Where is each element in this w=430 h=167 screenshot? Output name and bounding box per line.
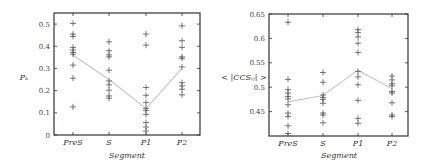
left-point-s xyxy=(106,82,112,88)
right-point-p1 xyxy=(355,82,361,88)
left-point-pres xyxy=(70,75,76,81)
right-y-tick-label: 0.45 xyxy=(249,108,265,116)
left-x-tick-label-p2: P2 xyxy=(176,138,187,147)
right-x-tick-label-p2: P2 xyxy=(386,139,397,148)
right-x-tick-label-pres: PreS xyxy=(277,139,298,148)
left-x-tick-label-pres: PreS xyxy=(62,138,83,147)
left-point-pres xyxy=(70,62,76,68)
left-point-pres xyxy=(70,20,76,26)
right-point-p1 xyxy=(355,97,361,103)
left-y-axis-title: Pₖ xyxy=(19,73,28,82)
left-y-tick-label: 0.5 xyxy=(39,21,50,29)
left-point-s xyxy=(106,67,112,73)
right-y-tick-label: 0.6 xyxy=(254,35,266,43)
left-y-tick-label: 0 xyxy=(46,132,50,140)
left-point-p1 xyxy=(143,85,149,91)
right-y-tick-label: 0.65 xyxy=(249,11,265,19)
right-mean-line xyxy=(288,70,392,102)
left-y-tick-label: 0.4 xyxy=(39,43,51,51)
left-y-tick-label: 0.3 xyxy=(39,65,50,73)
right-point-p1 xyxy=(355,34,361,40)
left-point-p1 xyxy=(143,100,149,106)
right-point-pres xyxy=(285,76,291,82)
left-plot-frame xyxy=(54,13,200,135)
left-point-s xyxy=(106,39,112,45)
left-point-p2 xyxy=(179,64,185,70)
right-point-pres xyxy=(285,19,291,25)
right-x-axis-title: Segment xyxy=(321,151,358,160)
right-point-p1 xyxy=(355,120,361,126)
left-point-p2 xyxy=(179,23,185,29)
left-x-tick-label-p1: P1 xyxy=(140,138,151,147)
left-point-p1 xyxy=(143,31,149,37)
right-panel-ccs: < |CCSᵢⱼ| > Segment 0.450.50.550.60.65Pr… xyxy=(221,11,408,161)
left-y-tick-label: 0.1 xyxy=(39,109,50,117)
right-y-tick-label: 0.5 xyxy=(254,84,265,92)
left-panel-pk: Pₖ Segment 00.10.20.30.40.5PreSSP1P2 xyxy=(19,13,200,160)
left-point-p2 xyxy=(179,55,185,61)
right-point-p1 xyxy=(355,74,361,80)
right-point-p1 xyxy=(355,40,361,46)
right-point-s xyxy=(320,70,326,76)
left-mean-line xyxy=(73,55,182,108)
right-plot-frame xyxy=(269,14,408,136)
left-x-tick-label-s: S xyxy=(106,138,112,147)
left-point-p2 xyxy=(179,92,185,98)
right-point-p2 xyxy=(389,90,395,96)
right-x-tick-label-s: S xyxy=(320,139,326,148)
right-y-tick-label: 0.55 xyxy=(249,59,265,67)
right-point-pres xyxy=(285,113,291,119)
right-point-pres xyxy=(285,123,291,129)
right-point-p1 xyxy=(355,69,361,75)
right-point-p2 xyxy=(389,100,395,106)
left-point-p2 xyxy=(179,38,185,44)
left-point-p1 xyxy=(143,128,149,134)
left-point-p1 xyxy=(143,111,149,117)
right-point-p2 xyxy=(389,113,395,119)
right-point-s xyxy=(320,79,326,85)
right-point-pres xyxy=(285,102,291,108)
right-point-s xyxy=(320,120,326,126)
right-x-tick-label-p1: P1 xyxy=(352,139,363,148)
left-y-tick-label: 0.2 xyxy=(39,87,50,95)
left-x-axis-title: Segment xyxy=(109,151,146,160)
left-point-p1 xyxy=(143,42,149,48)
left-point-pres xyxy=(70,104,76,110)
right-point-p1 xyxy=(355,50,361,56)
right-y-axis-title: < |CCSᵢⱼ| > xyxy=(221,73,266,82)
chart-canvas: Pₖ Segment 00.10.20.30.40.5PreSSP1P2 < |… xyxy=(0,0,430,167)
left-point-p1 xyxy=(143,92,149,98)
left-point-s xyxy=(106,87,112,93)
right-point-s xyxy=(320,100,326,106)
left-point-p2 xyxy=(179,86,185,92)
left-point-p2 xyxy=(179,44,185,50)
